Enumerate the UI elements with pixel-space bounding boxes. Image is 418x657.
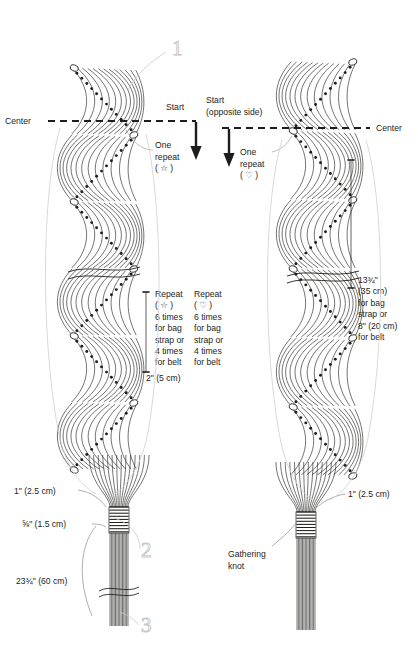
braid-thread-dot: [294, 135, 297, 138]
braid-thread-dot: [324, 92, 327, 95]
braid-thread-dot: [334, 220, 337, 223]
braid-thread-dot: [115, 154, 118, 157]
braid-thread-dot: [339, 459, 342, 462]
braid-thread-dot: [334, 358, 337, 361]
braid-thread-dot: [80, 345, 83, 348]
braid-thread-dot: [319, 236, 322, 239]
braid-thread-dot: [100, 365, 103, 368]
braid-thread-dot: [334, 315, 337, 318]
repeat-left-line-6: 4 times: [155, 346, 183, 356]
braid-thread-dot: [344, 209, 347, 212]
braid-thread-dot: [120, 283, 123, 286]
braid-thread-dot: [344, 71, 347, 74]
braid-thread-dot: [80, 458, 83, 461]
repeat-left-line-4: for bag: [155, 323, 182, 333]
repeat-right-line-1: Repeat: [194, 289, 222, 299]
repeat-left-line-7: for belt: [155, 357, 182, 367]
braid-thread-dot: [334, 453, 337, 456]
one-repeat-left-line3: ( ☆ ): [155, 163, 173, 173]
braid-thread-dot: [125, 144, 128, 147]
braid-thread-dot: [294, 124, 297, 127]
braid-thread-dot: [324, 368, 327, 371]
braid-thread-dot: [299, 119, 302, 122]
braid-thread-dot: [329, 363, 332, 366]
braid-thread-dot: [105, 371, 108, 374]
braid-thread-dot: [294, 411, 297, 414]
braid-thread-dot: [115, 247, 118, 250]
braid-thread-dot: [100, 170, 103, 173]
gathering-knot-line2: knot: [228, 561, 245, 571]
braid-thread-dot: [110, 293, 113, 296]
braid-thread-dot: [294, 400, 297, 403]
braid-thread-dot: [100, 438, 103, 441]
braid-thread-dot: [339, 214, 342, 217]
braid-thread-dot: [95, 360, 98, 363]
repeat-left-line-3: 6 times: [155, 312, 183, 322]
braid-thread-dot: [314, 379, 317, 382]
braid-thread-dot: [130, 262, 133, 265]
braid-thread-dot: [319, 299, 322, 302]
braid-thread-dot: [324, 167, 327, 170]
start-label-left: Start: [166, 102, 185, 112]
braid-thread-dot: [120, 417, 123, 420]
dim-one-inch-left-label: 1" (2.5 cm): [14, 486, 56, 496]
braid-thread-dot: [329, 225, 332, 228]
braid-thread-dot: [100, 231, 103, 234]
braid-thread-dot: [299, 140, 302, 143]
braid-thread-dot: [115, 288, 118, 291]
braid-thread-dot: [349, 66, 352, 69]
one-repeat-right-line3: ( ♡ ): [240, 170, 258, 180]
braid-thread-dot: [95, 175, 98, 178]
one-repeat-right-line2: repeat: [240, 159, 265, 169]
braid-thread-dot: [125, 257, 128, 260]
braid-thread-dot: [130, 128, 133, 131]
braid-thread-dot: [115, 113, 118, 116]
braid-thread-dot: [314, 432, 317, 435]
braid-thread-dot: [334, 177, 337, 180]
braid-thread-dot: [324, 305, 327, 308]
one-repeat-right-line1: One: [240, 147, 256, 157]
dim-two-inch-label: 2" (5 cm): [146, 373, 181, 383]
repeat-left-line-5: strap or: [155, 335, 184, 345]
braid-thread-dot: [75, 195, 78, 198]
braid-thread-dot: [105, 103, 108, 106]
length-right-line-2: (35 cm): [358, 286, 387, 296]
braid-thread-dot: [115, 381, 118, 384]
braid-thread-dot: [90, 314, 93, 317]
braid-thread-dot: [329, 87, 332, 90]
length-right-line-6: for belt: [358, 332, 385, 342]
braid-thread-dot: [75, 463, 78, 466]
dim-tail-length-label: 23¾" (60 cm): [16, 576, 67, 586]
braid-thread-dot: [125, 412, 128, 415]
braid-thread-dot: [309, 289, 312, 292]
braid-thread-dot: [120, 149, 123, 152]
braid-thread-dot: [85, 350, 88, 353]
braid-thread-dot: [125, 391, 128, 394]
braid-thread-dot: [319, 437, 322, 440]
braid-thread-dot: [344, 188, 347, 191]
start-label-right-line1: Start: [206, 95, 225, 105]
braid-thread-dot: [349, 331, 352, 334]
braid-thread-dot: [95, 443, 98, 446]
braid-thread-dot: [85, 216, 88, 219]
braid-thread-dot: [304, 390, 307, 393]
braid-thread-dot: [339, 183, 342, 186]
braid-thread-dot: [75, 206, 78, 209]
braid-thread-dot: [309, 246, 312, 249]
gathering-knot-line1: Gathering: [228, 549, 266, 559]
braid-thread-dot: [85, 185, 88, 188]
braid-thread-dot: [339, 352, 342, 355]
braid-thread-dot: [304, 145, 307, 148]
braid-thread-dot: [339, 76, 342, 79]
braid-thread-dot: [80, 190, 83, 193]
center-label-right: Center: [376, 123, 402, 133]
braid-thread-dot: [130, 273, 133, 276]
braid-thread-dot: [304, 114, 307, 117]
callout-number-1: 1: [172, 36, 183, 60]
braid-thread-dot: [75, 340, 78, 343]
start-label-right-line2: (opposite side): [206, 107, 263, 117]
braid-thread-dot: [80, 211, 83, 214]
length-right-line-4: strap or: [358, 309, 387, 319]
braid-thread-dot: [105, 432, 108, 435]
braid-thread-dot: [344, 464, 347, 467]
